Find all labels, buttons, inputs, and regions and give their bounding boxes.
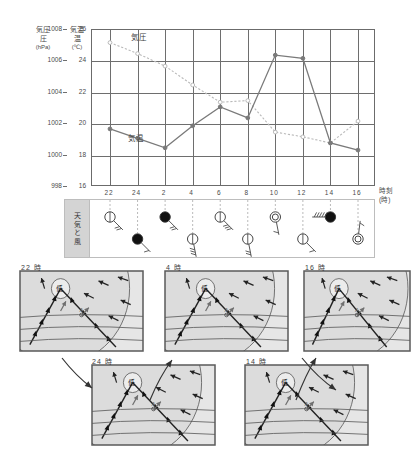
series-point-pressure-2 [163, 64, 167, 68]
series-point-temperature-4 [191, 124, 195, 128]
series-line-temperature [110, 55, 358, 150]
wind-shaft-12 [307, 243, 316, 252]
time-tick-10: 10 [263, 189, 285, 196]
map-16: A低 [270, 262, 410, 364]
wind-barb-14-4 [322, 212, 324, 217]
wind-shaft-24 [141, 243, 150, 252]
map-04-low-label: 低 [201, 284, 208, 293]
pressure-series-label: 気圧 [131, 31, 146, 42]
weather-symbols-canvas [65, 200, 376, 259]
weather-symbol-22 [105, 212, 123, 230]
map-22-low-label: 低 [56, 284, 63, 293]
series-point-pressure-10 [273, 130, 277, 134]
temperature-tick-26: 26 [68, 25, 86, 32]
weather-symbol-16 [353, 221, 364, 244]
temperature-tick-24: 24 [68, 56, 86, 63]
map-caption-04: 4 時 [166, 262, 182, 272]
series-point-temperature-14 [329, 141, 333, 145]
time-tick-8: 8 [236, 189, 258, 196]
wind-barb-14-2 [317, 212, 319, 217]
sky-filled-circle-24 [132, 234, 142, 244]
wind-barb-6-2 [225, 227, 230, 229]
time-tick-6: 6 [208, 189, 230, 196]
pressure-tick-mark-998 [63, 186, 67, 187]
temperature-tick-18: 18 [68, 151, 86, 158]
maps-canvas: A低A低A低A低A低 [0, 262, 414, 458]
time-tick-2: 2 [153, 189, 175, 196]
wind-barb-4-2 [190, 251, 195, 252]
temperature-axis-name2: 温 [66, 35, 88, 44]
map-16-low-label: 低 [334, 284, 341, 293]
series-point-temperature-6 [218, 105, 222, 109]
weather-map-sequence: A低A低A低A低A低 22 時 4 時 16 時 24 時 14 時 [0, 262, 414, 458]
time-tick-12: 12 [291, 189, 313, 196]
weather-symbol-4 [187, 234, 197, 257]
wind-barb-12-1 [309, 251, 314, 253]
series-point-temperature-12 [301, 56, 305, 60]
pressure-tick-1002: 1002 [28, 119, 62, 126]
map-24-low-label: 低 [128, 378, 135, 387]
weather-symbol-8 [243, 234, 253, 257]
series-point-temperature-8 [246, 116, 250, 120]
sky-filled-circle-2 [160, 212, 170, 222]
wind-barb-10-1 [274, 231, 279, 233]
series-point-pressure-24 [136, 52, 140, 56]
wind-barb-6-1 [227, 229, 232, 231]
weather-symbol-12 [298, 234, 316, 252]
time-tick-14: 14 [318, 189, 340, 196]
temperature-axis-unit: (℃) [66, 43, 88, 52]
sky-double-circle-10 [270, 212, 280, 222]
wind-barb-8-2 [246, 251, 251, 252]
series-point-pressure-4 [191, 83, 195, 87]
weather-symbol-6 [215, 212, 233, 230]
pressure-tick-1008: 1008 [28, 25, 62, 32]
wind-barb-4-1 [191, 253, 196, 255]
map-14-low-label: 低 [281, 378, 288, 387]
weather-symbol-2 [160, 212, 178, 230]
x-axis-label: 時刻 [379, 186, 393, 195]
series-point-pressure-22 [108, 41, 112, 45]
series-point-pressure-12 [301, 135, 305, 139]
map-22: A低 [0, 262, 143, 364]
plot-area [91, 29, 375, 186]
series-point-temperature-16 [356, 148, 360, 152]
pressure-tick-1006: 1006 [28, 56, 62, 63]
wind-barb-6-3 [223, 225, 228, 227]
wind-barb-16-1 [360, 223, 364, 226]
x-axis-unit: (時) [379, 195, 393, 204]
wind-barb-2-1 [172, 229, 177, 231]
weather-wind-band: 天気と風 [64, 199, 375, 258]
map-16-point-label: A [355, 307, 359, 313]
sky-double-circle-16 [353, 234, 363, 244]
series-point-temperature-22 [108, 127, 112, 131]
weather-symbol-10 [270, 212, 280, 235]
series-point-pressure-6 [218, 100, 222, 104]
map-caption-16: 16 時 [305, 262, 326, 272]
time-tick-24: 24 [126, 189, 148, 196]
time-tick-16: 16 [346, 189, 368, 196]
pressure-tick-mark-1008 [63, 29, 67, 30]
figure-root: 気圧 圧 (hPa) 気温 温 (℃) 99810001002100410061… [0, 0, 414, 458]
series-point-pressure-16 [356, 119, 360, 123]
wind-barb-14-3 [319, 212, 321, 217]
time-tick-22: 22 [98, 189, 120, 196]
series-point-temperature-10 [273, 53, 277, 57]
series-point-temperature-2 [163, 146, 167, 150]
series-point-pressure-8 [246, 99, 250, 103]
map-04-point-label: A [225, 307, 229, 313]
weather-chart: 気圧 圧 (hPa) 気温 温 (℃) 99810001002100410061… [0, 0, 414, 200]
map-caption-24: 24 時 [92, 356, 113, 366]
map-22-point-label: A [80, 307, 84, 313]
pressure-tick-mark-1004 [63, 92, 67, 93]
wind-barb-4-3 [190, 248, 195, 250]
map-14-point-label: A [305, 401, 309, 407]
wind-barb-14-1 [314, 212, 316, 217]
wind-barb-22-2 [115, 227, 120, 229]
wind-barb-24-1 [144, 251, 149, 253]
x-axis-caption: 時刻 (時) [379, 186, 393, 204]
map-04: A低 [137, 262, 288, 364]
time-tick-4: 4 [181, 189, 203, 196]
series-line-pressure [110, 43, 358, 143]
temperature-tick-16: 16 [68, 182, 86, 189]
pressure-tick-mark-1000 [63, 155, 67, 156]
